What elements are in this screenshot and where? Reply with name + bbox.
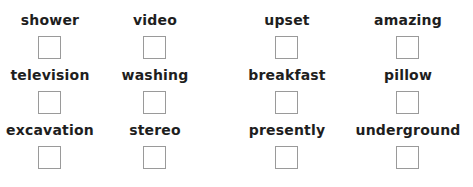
checkbox[interactable] — [396, 91, 419, 114]
word-item-underground: underground — [348, 121, 468, 175]
checkbox[interactable] — [396, 146, 419, 169]
word-label: excavation — [0, 121, 110, 139]
word-label: television — [0, 66, 110, 84]
checkbox[interactable] — [38, 91, 61, 114]
word-label: pillow — [348, 66, 468, 84]
checkbox[interactable] — [143, 36, 166, 59]
word-item-pillow: pillow — [348, 66, 468, 120]
checkbox[interactable] — [38, 36, 61, 59]
word-label: stereo — [95, 121, 215, 139]
word-item-excavation: excavation — [0, 121, 110, 175]
checkbox[interactable] — [143, 91, 166, 114]
word-label: breakfast — [227, 66, 347, 84]
word-label: video — [95, 11, 215, 29]
word-label: underground — [348, 121, 468, 139]
word-item-stereo: stereo — [95, 121, 215, 175]
word-item-washing: washing — [95, 66, 215, 120]
word-item-upset: upset — [227, 11, 347, 65]
word-label: amazing — [348, 11, 468, 29]
word-item-breakfast: breakfast — [227, 66, 347, 120]
word-item-video: video — [95, 11, 215, 65]
checkbox[interactable] — [143, 146, 166, 169]
word-label: upset — [227, 11, 347, 29]
word-label: shower — [0, 11, 110, 29]
word-label: presently — [227, 121, 347, 139]
checkbox[interactable] — [275, 146, 298, 169]
checkbox[interactable] — [396, 36, 419, 59]
checkbox[interactable] — [275, 36, 298, 59]
word-item-shower: shower — [0, 11, 110, 65]
word-item-amazing: amazing — [348, 11, 468, 65]
word-label: washing — [95, 66, 215, 84]
checkbox[interactable] — [275, 91, 298, 114]
checkbox[interactable] — [38, 146, 61, 169]
word-item-television: television — [0, 66, 110, 120]
word-item-presently: presently — [227, 121, 347, 175]
